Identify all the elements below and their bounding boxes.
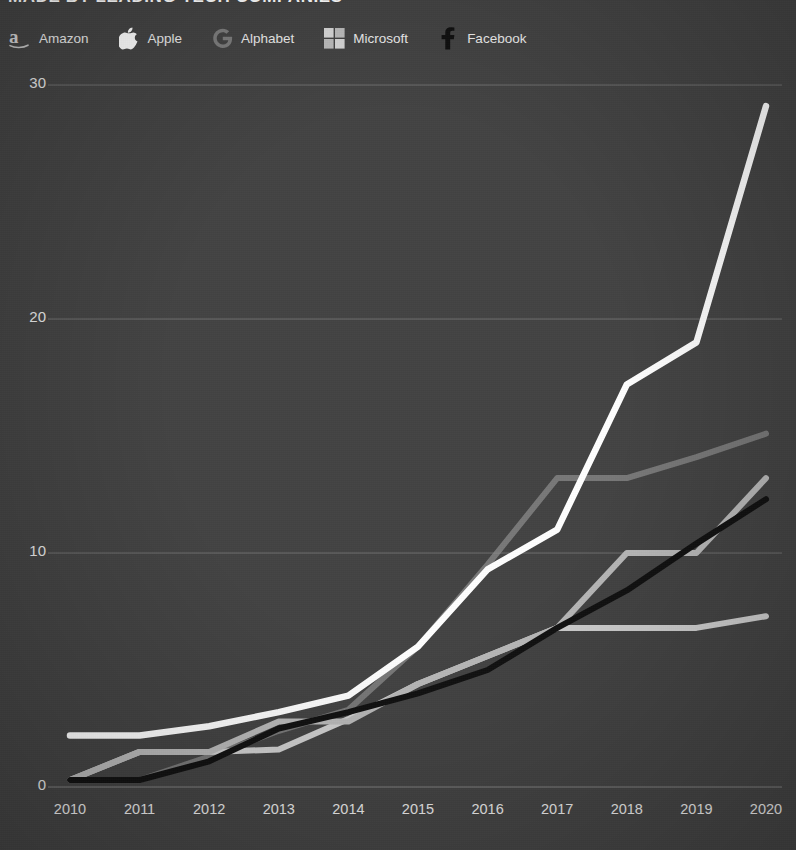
x-axis-tick-label: 2015 [388,801,448,817]
x-axis-tick-label: 2014 [318,801,378,817]
legend-label-alphabet: Alphabet [241,31,294,46]
facebook-logo-icon [436,26,460,50]
page-title: MADE BY LEADING TECH COMPANIES [8,0,343,7]
apple-logo-icon [117,26,141,50]
x-axis-tick-label: 2020 [736,801,796,817]
legend-item-facebook[interactable]: Facebook [436,26,526,50]
x-axis-tick-label: 2010 [40,801,100,817]
legend-item-microsoft[interactable]: Microsoft [322,26,408,50]
y-axis-tick-label: 20 [2,308,46,325]
series-line-microsoft[interactable] [70,616,766,780]
y-axis-tick-label: 0 [2,776,46,793]
chart-legend: a Amazon Apple Alphabet [8,26,554,50]
legend-label-amazon: Amazon [39,31,89,46]
amazon-logo-icon: a [8,26,32,50]
legend-label-microsoft: Microsoft [353,31,408,46]
microsoft-logo-icon [322,26,346,50]
legend-label-facebook: Facebook [467,31,526,46]
x-axis-tick-label: 2016 [458,801,518,817]
legend-item-alphabet[interactable]: Alphabet [210,26,294,50]
x-axis-tick-label: 2012 [179,801,239,817]
chart-plot-area: 0102030 20102011201220132014201520162017… [0,60,796,850]
legend-label-apple: Apple [148,31,183,46]
x-axis-tick-label: 2011 [110,801,170,817]
x-axis-tick-label: 2019 [666,801,726,817]
x-axis-tick-label: 2018 [597,801,657,817]
x-axis-tick-label: 2013 [249,801,309,817]
legend-item-amazon[interactable]: a Amazon [8,26,89,50]
series-line-apple[interactable] [70,106,766,735]
series-line-facebook[interactable] [70,499,766,780]
y-axis-tick-label: 10 [2,542,46,559]
svg-text:a: a [9,26,19,47]
alphabet-logo-icon [210,26,234,50]
legend-item-apple[interactable]: Apple [117,26,183,50]
y-axis-tick-label: 30 [2,74,46,91]
line-chart [0,60,796,850]
x-axis-tick-label: 2017 [527,801,587,817]
